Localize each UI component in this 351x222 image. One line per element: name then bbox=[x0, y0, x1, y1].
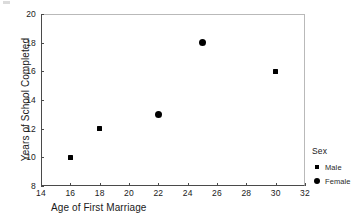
legend-title: Sex bbox=[312, 146, 351, 156]
plot-area bbox=[41, 14, 305, 186]
x-axis-tick bbox=[305, 183, 306, 186]
x-axis-tick-label: 30 bbox=[264, 188, 288, 199]
x-axis-tick bbox=[188, 183, 189, 186]
x-axis-tick-label: 22 bbox=[146, 188, 170, 199]
y-axis-tick bbox=[41, 129, 44, 130]
y-axis-title: Years of School Completed bbox=[20, 10, 31, 190]
data-point-male bbox=[273, 69, 278, 74]
circle-marker-icon bbox=[312, 178, 322, 185]
square-marker-icon bbox=[312, 165, 322, 170]
y-axis-tick bbox=[41, 186, 44, 187]
legend-item-label: Female bbox=[325, 177, 351, 186]
marker-glyph bbox=[315, 165, 320, 170]
x-axis-tick bbox=[70, 183, 71, 186]
x-axis-tick-label: 16 bbox=[58, 188, 82, 199]
legend-item-label: Male bbox=[325, 163, 342, 172]
x-axis-title: Age of First Marriage bbox=[41, 202, 305, 213]
x-axis-tick-label: 24 bbox=[176, 188, 200, 199]
y-axis-tick bbox=[41, 14, 44, 15]
legend: Sex MaleFemale bbox=[312, 146, 351, 189]
x-axis-tick-label: 20 bbox=[117, 188, 141, 199]
marker-glyph bbox=[314, 178, 321, 185]
data-point-female bbox=[155, 111, 162, 118]
y-axis-tick bbox=[41, 100, 44, 101]
data-point-male bbox=[97, 126, 102, 131]
x-axis-tick bbox=[158, 183, 159, 186]
x-axis-tick bbox=[276, 183, 277, 186]
y-axis-tick bbox=[41, 43, 44, 44]
x-axis-tick-label: 32 bbox=[293, 188, 317, 199]
x-axis-tick-label: 18 bbox=[88, 188, 112, 199]
x-axis-tick bbox=[129, 183, 130, 186]
x-axis-tick-label: 28 bbox=[234, 188, 258, 199]
scan-artifact bbox=[3, 1, 10, 4]
x-axis-tick bbox=[217, 183, 218, 186]
legend-entries: MaleFemale bbox=[312, 161, 351, 187]
legend-item-female: Female bbox=[312, 175, 351, 187]
data-point-male bbox=[68, 155, 73, 160]
scatter-chart: 141618202224262830328101214161820 Age of… bbox=[0, 0, 351, 222]
x-axis-tick bbox=[100, 183, 101, 186]
data-point-female bbox=[199, 39, 206, 46]
x-axis-tick-label: 26 bbox=[205, 188, 229, 199]
x-axis-tick bbox=[246, 183, 247, 186]
y-axis-tick bbox=[41, 157, 44, 158]
legend-item-male: Male bbox=[312, 161, 351, 173]
y-axis-tick bbox=[41, 71, 44, 72]
